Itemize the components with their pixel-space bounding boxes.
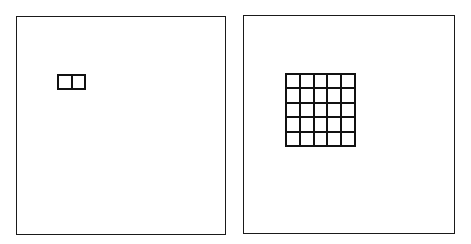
- left-cell-grid: [57, 74, 86, 90]
- grid-cell: [300, 117, 314, 131]
- grid-cell: [300, 88, 314, 102]
- grid-cell: [72, 75, 86, 89]
- grid-cell: [327, 88, 341, 102]
- grid-cell: [286, 74, 300, 88]
- grid-cell: [300, 74, 314, 88]
- grid-cell: [341, 132, 355, 146]
- grid-cell: [286, 132, 300, 146]
- grid-cell: [341, 74, 355, 88]
- grid-cell: [314, 103, 328, 117]
- grid-cell: [300, 132, 314, 146]
- left-panel-frame: [16, 16, 226, 235]
- grid-cell: [286, 103, 300, 117]
- grid-cell: [286, 88, 300, 102]
- grid-cell: [300, 103, 314, 117]
- grid-cell: [327, 117, 341, 131]
- grid-cell: [341, 103, 355, 117]
- grid-cell: [314, 117, 328, 131]
- grid-cell: [327, 74, 341, 88]
- grid-cell: [341, 117, 355, 131]
- grid-cell: [327, 132, 341, 146]
- grid-cell: [341, 88, 355, 102]
- grid-cell: [327, 103, 341, 117]
- right-cell-grid: [285, 73, 356, 147]
- grid-cell: [314, 88, 328, 102]
- grid-cell: [314, 132, 328, 146]
- grid-cell: [314, 74, 328, 88]
- grid-cell: [286, 117, 300, 131]
- grid-cell: [58, 75, 72, 89]
